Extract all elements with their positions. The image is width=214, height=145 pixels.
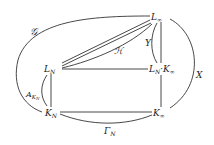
node-l-inf: L∞: [150, 12, 162, 23]
label-h: ℋ: [114, 46, 125, 56]
edge-a: [42, 75, 47, 106]
label-a: AKN: [25, 90, 40, 101]
label-gamma: ΓN: [103, 126, 116, 137]
edge-ln-linf-1: [62, 20, 150, 63]
edge-ln-linf-2: [62, 23, 151, 66]
galois-diagram: L∞ LN LN·K∞ KN K∞ 𝒢 ℋ Y X AKN ΓN: [0, 0, 214, 145]
node-k-inf: K∞: [152, 108, 165, 119]
label-g: 𝒢: [30, 26, 39, 37]
node-ln-kinf: LN·K∞: [148, 64, 175, 75]
edge-y: [152, 23, 157, 63]
node-k-n: KN: [44, 108, 58, 119]
node-l-n: LN: [43, 64, 56, 75]
label-y: Y: [145, 38, 152, 48]
label-x: X: [195, 70, 203, 80]
edge-h: [62, 24, 152, 68]
edge-gamma: [60, 114, 152, 123]
edge-x: [170, 19, 194, 108]
